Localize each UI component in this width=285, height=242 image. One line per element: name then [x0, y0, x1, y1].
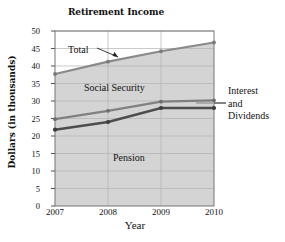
- total-label: Total: [68, 44, 88, 55]
- stacked-area-fill: [55, 43, 214, 207]
- legend-line-3: Dividends: [228, 110, 269, 123]
- legend-line-1: Interest: [228, 85, 269, 98]
- social-security-label: Social Security: [84, 82, 145, 93]
- chart-figure: Retirement Income Dollars (in thousands)…: [0, 0, 285, 242]
- total-annotation-arrow: [97, 48, 118, 57]
- pension-label: Pension: [113, 152, 145, 163]
- legend-line-2: and: [228, 98, 269, 111]
- interest-dividends-legend: Interest and Dividends: [228, 85, 269, 123]
